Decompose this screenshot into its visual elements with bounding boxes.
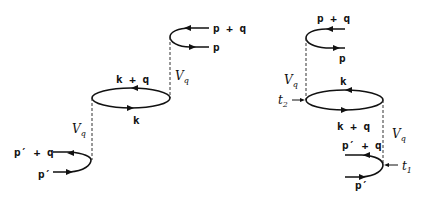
arrow-left-icon	[67, 150, 74, 156]
arrow-left-icon	[184, 25, 191, 31]
label-bubble-top: k	[340, 75, 347, 88]
label-interaction-lower: Vq	[72, 122, 86, 138]
arrow-left-icon	[363, 152, 370, 158]
label-bottom-in: p′ + q	[342, 139, 382, 152]
label-time-t2: t2	[278, 93, 288, 109]
top-fermion-loop	[170, 28, 209, 47]
label-bottom-in: p′ + q	[14, 146, 54, 159]
arrow-right-icon	[341, 107, 348, 113]
label-interaction-upper: Vq	[175, 69, 189, 85]
left-diagram: p + q p Vq k + q k Vq p′ + q p′	[14, 22, 246, 181]
label-time-t1: t1	[402, 159, 412, 175]
label-bubble-bottom: k	[133, 114, 140, 127]
top-fermion-loop	[306, 29, 345, 48]
label-bubble-bottom: k + q	[337, 120, 370, 133]
label-interaction-upper: Vq	[284, 73, 298, 89]
bottom-fermion-loop	[345, 155, 383, 177]
arrow-right-icon	[300, 98, 305, 102]
arrow-right-icon	[127, 105, 134, 111]
feynman-diagrams: p + q p Vq k + q k Vq p′ + q p′ p + q p …	[0, 0, 421, 198]
label-top-in: p + q	[213, 22, 246, 35]
polarization-bubble	[92, 88, 170, 108]
label-top-in: p + q	[317, 12, 350, 25]
label-bottom-out: p′	[355, 179, 368, 192]
arrow-left-icon	[384, 163, 389, 167]
label-top-out: p	[213, 41, 220, 54]
arrow-left-icon	[326, 26, 333, 32]
arrow-right-icon	[66, 169, 73, 175]
right-diagram: p + q p Vq t2 k k + q Vq p′ + q p′ t1	[278, 12, 412, 192]
polarization-bubble	[306, 90, 383, 110]
arrow-right-icon	[189, 44, 196, 50]
label-bottom-out: p′	[38, 168, 51, 181]
arrow-right-icon	[333, 45, 340, 51]
label-top-out: p	[339, 52, 346, 65]
label-bubble-top: k + q	[116, 73, 149, 86]
label-interaction-lower: Vq	[392, 127, 406, 143]
